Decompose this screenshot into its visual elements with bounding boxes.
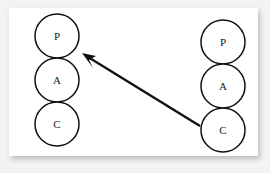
node-left-a: A [35,58,79,102]
diagram-page: P A C P A C [0,0,270,173]
connector-c-to-p [82,53,200,126]
node-right-a: A [201,64,245,108]
node-left-c: C [35,102,79,146]
node-label: C [219,124,226,136]
node-right-p: P [201,20,245,64]
node-group-right: P A C [201,20,245,152]
node-label: C [53,118,60,130]
node-label: P [220,36,226,48]
circle-stack-diagram: P A C P A C [0,0,270,173]
node-label: P [54,30,60,42]
node-group-left: P A C [35,14,79,146]
node-right-c: C [201,108,245,152]
node-label: A [219,80,227,92]
node-left-p: P [35,14,79,58]
arrow-shaft [88,57,200,126]
node-label: A [53,74,61,86]
